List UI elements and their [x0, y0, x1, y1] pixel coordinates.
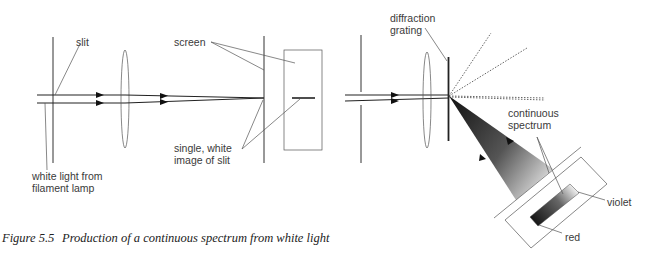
left-diagram: slit white light from filament lamp scre…: [31, 36, 322, 194]
label-spectrum-line1: continuous: [508, 107, 559, 119]
label-source-line1: white light from: [31, 170, 103, 182]
label-image-line2: image of slit: [174, 154, 230, 166]
arrowhead-icon: [96, 100, 104, 106]
arrowhead-icon: [479, 154, 486, 161]
arrowhead-icon: [160, 93, 168, 99]
converging-lens: [423, 52, 431, 148]
leader-violet: [578, 192, 605, 200]
converging-ray-bottom: [125, 98, 264, 103]
caption-text: Production of a continuous spectrum from…: [61, 231, 330, 245]
label-spectrum-line2: spectrum: [508, 119, 551, 131]
diffracted-order-dotted: [449, 96, 545, 98]
label-image-line1: single, white: [174, 142, 232, 154]
leader-image-1: [242, 100, 263, 149]
label-violet: violet: [607, 196, 632, 208]
label-source-line2: filament lamp: [32, 182, 95, 194]
arrowhead-icon: [391, 92, 399, 98]
leader-grating: [425, 28, 447, 61]
label-slit: slit: [76, 36, 89, 48]
screen-face: [284, 50, 322, 150]
spectrum-band: [530, 184, 579, 226]
arrowhead-icon: [160, 99, 168, 105]
diffracted-order-dotted: [449, 48, 527, 96]
label-grating-line1: diffraction: [390, 12, 435, 24]
leader-source: [45, 103, 47, 170]
figure-caption: Figure 5.5 Production of a continuous sp…: [1, 231, 330, 245]
leader-screen-2: [211, 42, 295, 63]
converging-ray-top: [125, 95, 264, 98]
label-screen: screen: [174, 36, 206, 48]
leader-screen-1: [211, 42, 264, 70]
leader-image-2: [242, 99, 300, 149]
label-grating-line2: grating: [390, 24, 422, 36]
right-diagram: diffraction grating continuous spectrum …: [345, 12, 632, 248]
converging-lens: [121, 50, 129, 148]
leader-slit: [55, 44, 80, 95]
arrowhead-icon: [391, 98, 399, 104]
diagram-canvas: slit white light from filament lamp scre…: [0, 0, 660, 254]
diffracted-order-dotted: [449, 33, 491, 96]
label-red: red: [565, 231, 580, 243]
caption-number: Figure 5.5: [1, 231, 54, 245]
arrowhead-icon: [96, 92, 104, 98]
